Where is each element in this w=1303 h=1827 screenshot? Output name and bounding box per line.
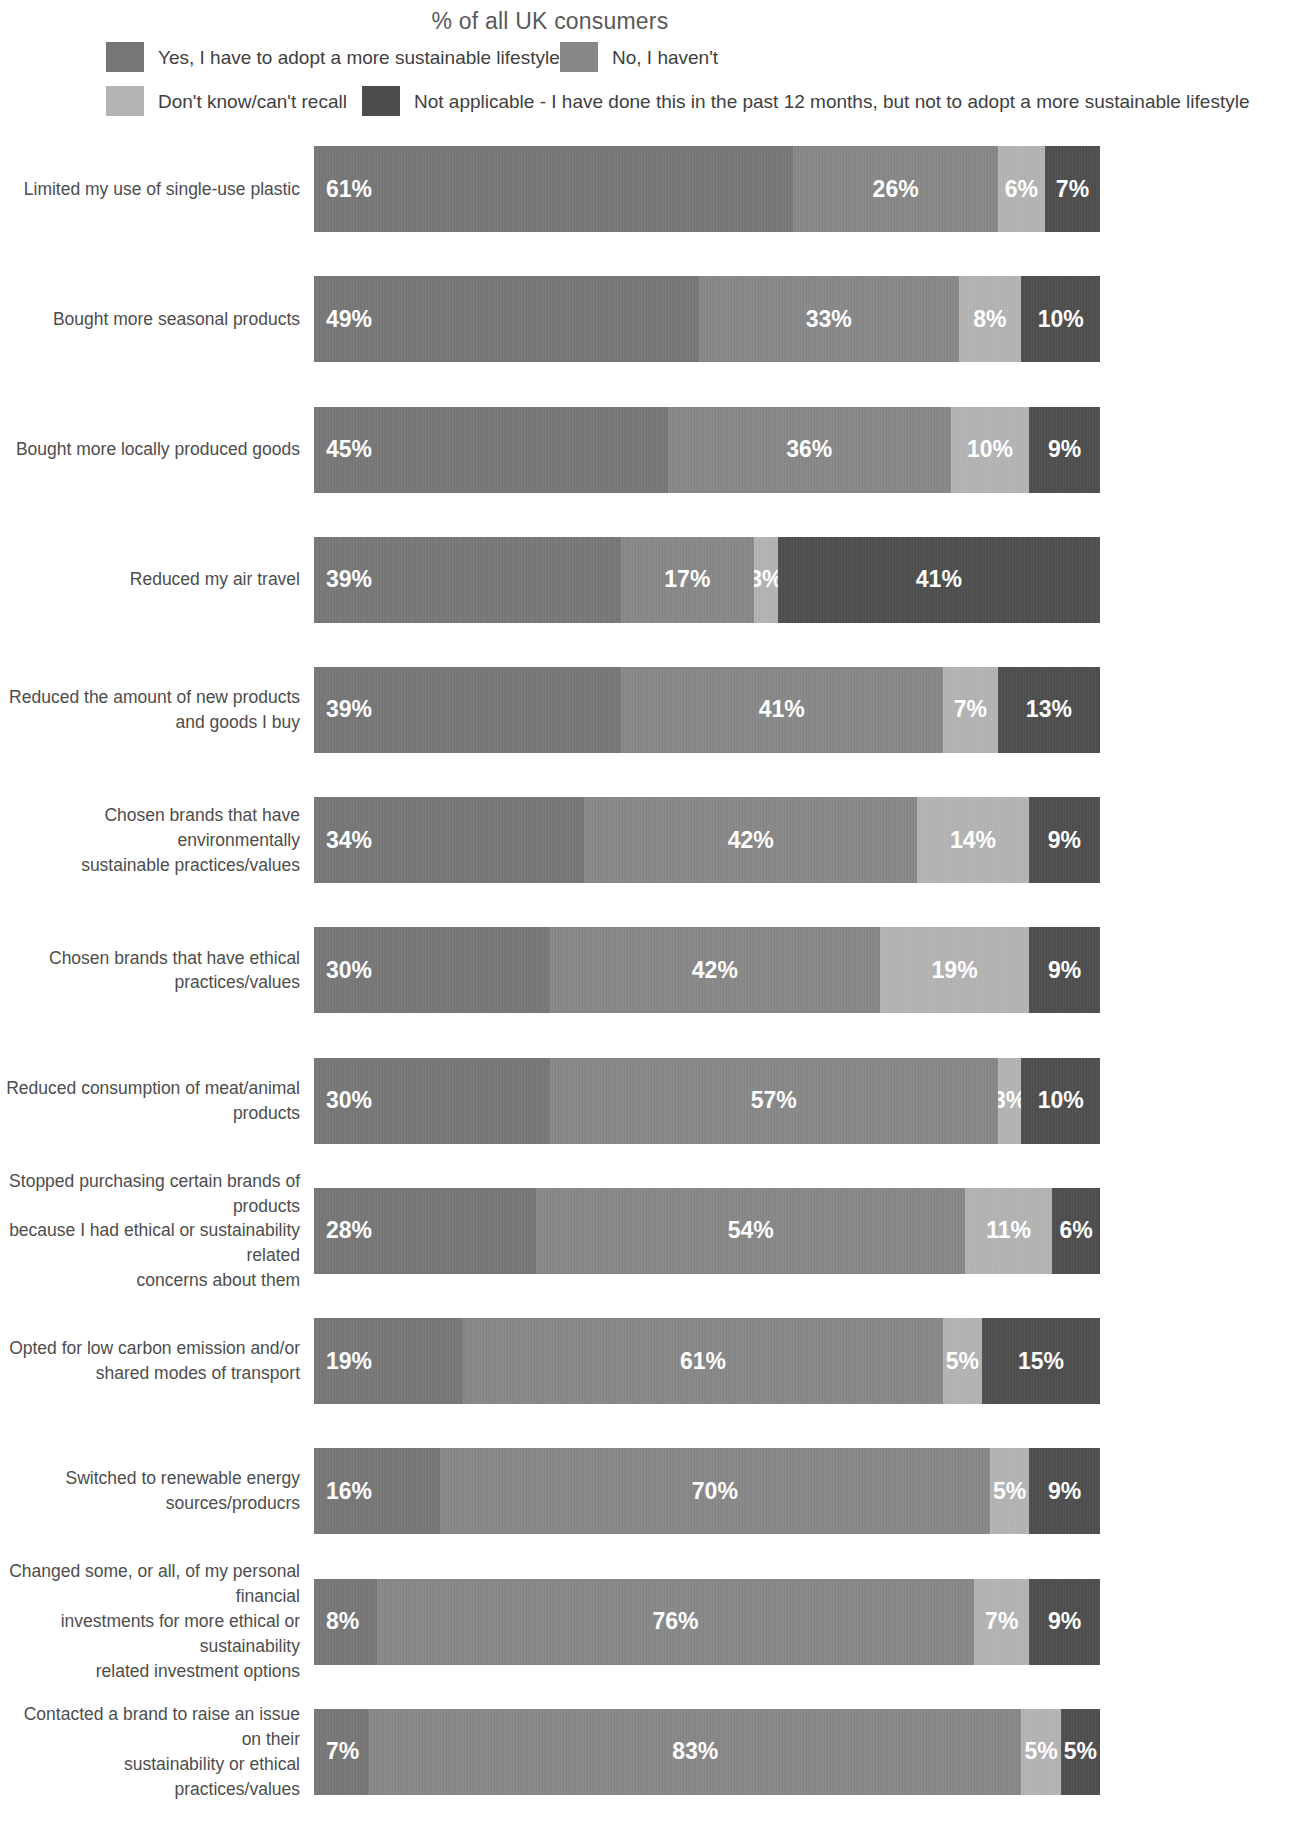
bar-segment-no[interactable]: 33% bbox=[699, 276, 958, 362]
legend-item-no[interactable]: No, I haven't bbox=[560, 42, 718, 72]
chart-page: % of all UK consumers Yes, I have to ado… bbox=[0, 0, 1303, 1827]
bar-segment-no[interactable]: 42% bbox=[584, 797, 917, 883]
bar-segment-value: 10% bbox=[967, 438, 1013, 461]
bar-segment-no[interactable]: 26% bbox=[793, 146, 997, 232]
bar-segment-value: 5% bbox=[1024, 1740, 1057, 1763]
bar-segment-yes[interactable]: 16% bbox=[314, 1448, 440, 1534]
bar-segment-yes[interactable]: 28% bbox=[314, 1188, 536, 1274]
stacked-bar: 8%76%7%9% bbox=[314, 1579, 1100, 1665]
bar-segment-notapplicable[interactable]: 9% bbox=[1029, 797, 1100, 883]
row-label: Limited my use of single-use plastic bbox=[0, 177, 314, 202]
legend-item-dontknow[interactable]: Don't know/can't recall bbox=[106, 86, 347, 116]
bar-segment-yes[interactable]: 39% bbox=[314, 537, 621, 623]
bar-segment-dontknow[interactable]: 3% bbox=[754, 537, 778, 623]
bar-segment-dontknow[interactable]: 10% bbox=[951, 407, 1030, 493]
bar-segment-value: 10% bbox=[1038, 1089, 1084, 1112]
bar-segment-no[interactable]: 70% bbox=[440, 1448, 990, 1534]
chart-row: Stopped purchasing certain brands of pro… bbox=[0, 1166, 1303, 1296]
legend-label-notapplicable: Not applicable - I have done this in the… bbox=[414, 92, 1249, 111]
bar-segment-yes[interactable]: 61% bbox=[314, 146, 793, 232]
bar-segment-no[interactable]: 41% bbox=[621, 667, 943, 753]
bar-segment-dontknow[interactable]: 19% bbox=[880, 927, 1029, 1013]
legend-label-no: No, I haven't bbox=[612, 48, 718, 67]
bar-segment-notapplicable[interactable]: 6% bbox=[1052, 1188, 1100, 1274]
stacked-bar: 30%57%3%10% bbox=[314, 1058, 1100, 1144]
legend-item-yes[interactable]: Yes, I have to adopt a more sustainable … bbox=[106, 42, 560, 72]
bar-segment-dontknow[interactable]: 5% bbox=[990, 1448, 1029, 1534]
bar-segment-no[interactable]: 36% bbox=[668, 407, 951, 493]
bar-segment-notapplicable[interactable]: 10% bbox=[1021, 276, 1100, 362]
bar-segment-value: 57% bbox=[751, 1089, 797, 1112]
row-label-line: Reduced consumption of meat/animal produ… bbox=[0, 1076, 300, 1126]
chart-title: % of all UK consumers bbox=[0, 8, 1100, 35]
bar-segment-dontknow[interactable]: 14% bbox=[917, 797, 1028, 883]
bar-segment-no[interactable]: 76% bbox=[377, 1579, 974, 1665]
bar-segment-no[interactable]: 54% bbox=[536, 1188, 965, 1274]
bar-segment-value: 8% bbox=[973, 308, 1006, 331]
stacked-bar: 49%33%8%10% bbox=[314, 276, 1100, 362]
bar-segment-dontknow[interactable]: 5% bbox=[943, 1318, 982, 1404]
row-label: Reduced consumption of meat/animal produ… bbox=[0, 1076, 314, 1126]
bar-segment-value: 42% bbox=[692, 959, 738, 982]
row-label: Reduced my air travel bbox=[0, 567, 314, 592]
bar-segment-notapplicable[interactable]: 9% bbox=[1029, 1579, 1100, 1665]
bar-segment-value: 7% bbox=[1056, 178, 1089, 201]
row-label-line: because I had ethical or sustainability … bbox=[0, 1218, 300, 1268]
bar-segment-value: 70% bbox=[692, 1480, 738, 1503]
stacked-bar: 34%42%14%9% bbox=[314, 797, 1100, 883]
bar-segment-value: 8% bbox=[326, 1610, 359, 1633]
bar-segment-value: 61% bbox=[326, 178, 372, 201]
bar-segment-notapplicable[interactable]: 15% bbox=[982, 1318, 1100, 1404]
chart-row: Opted for low carbon emission and/orshar… bbox=[0, 1296, 1303, 1426]
bar-segment-yes[interactable]: 7% bbox=[314, 1709, 369, 1795]
bar-segment-notapplicable[interactable]: 7% bbox=[1045, 146, 1100, 232]
bar-segment-yes[interactable]: 30% bbox=[314, 1058, 550, 1144]
bar-segment-dontknow[interactable]: 6% bbox=[998, 146, 1045, 232]
bar-segment-dontknow[interactable]: 5% bbox=[1021, 1709, 1060, 1795]
bar-segment-yes[interactable]: 39% bbox=[314, 667, 621, 753]
bar-segment-notapplicable[interactable]: 9% bbox=[1029, 407, 1100, 493]
bar-segment-yes[interactable]: 34% bbox=[314, 797, 584, 883]
bar-segment-value: 17% bbox=[664, 568, 710, 591]
bar-segment-notapplicable[interactable]: 13% bbox=[998, 667, 1100, 753]
stacked-bar: 7%83%5%5% bbox=[314, 1709, 1100, 1795]
bar-segment-value: 34% bbox=[326, 829, 372, 852]
bar-segment-yes[interactable]: 30% bbox=[314, 927, 550, 1013]
bar-segment-value: 9% bbox=[1048, 438, 1081, 461]
chart-row: Reduced consumption of meat/animal produ… bbox=[0, 1036, 1303, 1166]
bar-segment-no[interactable]: 61% bbox=[463, 1318, 942, 1404]
bar-segment-yes[interactable]: 45% bbox=[314, 407, 668, 493]
bar-segment-dontknow[interactable]: 8% bbox=[959, 276, 1022, 362]
row-label-line: related investment options bbox=[0, 1659, 300, 1684]
bar-segment-no[interactable]: 42% bbox=[550, 927, 880, 1013]
bar-segment-value: 14% bbox=[950, 829, 996, 852]
chart-row: Chosen brands that have ethical practice… bbox=[0, 905, 1303, 1035]
bar-segment-notapplicable[interactable]: 10% bbox=[1021, 1058, 1100, 1144]
bar-segment-dontknow[interactable]: 11% bbox=[965, 1188, 1052, 1274]
bar-segment-value: 41% bbox=[916, 568, 962, 591]
bar-segment-value: 39% bbox=[326, 698, 372, 721]
bar-segment-dontknow[interactable]: 3% bbox=[998, 1058, 1022, 1144]
legend-item-notapplicable[interactable]: Not applicable - I have done this in the… bbox=[362, 86, 1249, 116]
row-label-line: shared modes of transport bbox=[0, 1361, 300, 1386]
row-label: Reduced the amount of new productsand go… bbox=[0, 685, 314, 735]
bar-segment-no[interactable]: 83% bbox=[369, 1709, 1021, 1795]
bar-segment-yes[interactable]: 19% bbox=[314, 1318, 463, 1404]
row-label-line: concerns about them bbox=[0, 1268, 300, 1293]
bar-segment-value: 36% bbox=[786, 438, 832, 461]
bar-segment-yes[interactable]: 8% bbox=[314, 1579, 377, 1665]
bar-segment-notapplicable[interactable]: 9% bbox=[1029, 1448, 1100, 1534]
bar-segment-no[interactable]: 17% bbox=[621, 537, 755, 623]
bar-segment-dontknow[interactable]: 7% bbox=[943, 667, 998, 753]
bar-segment-value: 39% bbox=[326, 568, 372, 591]
bar-segment-value: 61% bbox=[680, 1350, 726, 1373]
bar-segment-dontknow[interactable]: 7% bbox=[974, 1579, 1029, 1665]
bar-segment-yes[interactable]: 49% bbox=[314, 276, 699, 362]
bar-segment-no[interactable]: 57% bbox=[550, 1058, 998, 1144]
bar-segment-notapplicable[interactable]: 41% bbox=[778, 537, 1100, 623]
bar-segment-notapplicable[interactable]: 5% bbox=[1061, 1709, 1100, 1795]
bar-segment-notapplicable[interactable]: 9% bbox=[1029, 927, 1100, 1013]
stacked-bar: 39%17%3%41% bbox=[314, 537, 1100, 623]
row-label-line: and goods I buy bbox=[0, 710, 300, 735]
bar-segment-value: 10% bbox=[1038, 308, 1084, 331]
